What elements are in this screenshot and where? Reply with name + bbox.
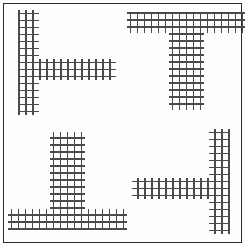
local-letter-glyph	[176, 68, 183, 75]
local-letter-glyph	[209, 206, 216, 213]
local-letter-glyph	[78, 167, 85, 174]
local-letter-glyph	[209, 171, 216, 178]
local-letter-glyph	[106, 209, 113, 216]
glyph-row	[50, 132, 85, 139]
local-letter-glyph	[18, 17, 25, 24]
glyph-row	[132, 178, 209, 185]
local-letter-glyph	[57, 209, 64, 216]
local-letter-glyph	[71, 167, 78, 174]
local-letter-glyph	[67, 66, 74, 73]
local-letter-glyph	[64, 202, 71, 209]
glyph-row	[209, 227, 230, 234]
local-letter-glyph	[190, 33, 197, 40]
glyph-row	[169, 54, 204, 61]
local-letter-glyph	[15, 216, 22, 223]
local-letter-glyph	[102, 73, 109, 80]
local-letter-glyph	[32, 17, 39, 24]
local-letter-glyph	[64, 188, 71, 195]
local-letter-glyph	[78, 153, 85, 160]
local-letter-glyph	[216, 129, 223, 136]
local-letter-glyph	[74, 66, 81, 73]
local-letter-glyph	[57, 139, 64, 146]
local-letter-glyph	[216, 171, 223, 178]
local-letter-glyph	[169, 82, 176, 89]
local-letter-glyph	[183, 82, 190, 89]
local-letter-glyph	[216, 136, 223, 143]
local-letter-glyph	[183, 103, 190, 110]
local-letter-glyph	[102, 66, 109, 73]
local-letter-glyph	[46, 73, 53, 80]
local-letter-glyph	[216, 185, 223, 192]
local-letter-glyph	[169, 61, 176, 68]
local-letter-glyph	[71, 188, 78, 195]
glyph-row	[50, 146, 85, 153]
glyph-row	[18, 17, 39, 24]
local-letter-glyph	[71, 195, 78, 202]
local-letter-glyph	[204, 19, 211, 26]
glyph-row	[39, 73, 116, 80]
local-letter-glyph	[160, 185, 167, 192]
glyph-row	[169, 68, 204, 75]
local-letter-glyph	[32, 80, 39, 87]
local-letter-glyph	[67, 73, 74, 80]
local-letter-glyph	[81, 66, 88, 73]
local-letter-glyph	[190, 19, 197, 26]
local-letter-glyph	[50, 174, 57, 181]
glyph-row	[209, 143, 230, 150]
local-letter-glyph	[153, 178, 160, 185]
local-letter-glyph	[204, 12, 211, 19]
local-letter-glyph	[181, 185, 188, 192]
local-letter-glyph	[169, 54, 176, 61]
local-letter-glyph	[81, 73, 88, 80]
local-letter-glyph	[39, 66, 46, 73]
local-letter-glyph	[183, 68, 190, 75]
glyph-row	[169, 33, 204, 40]
local-letter-glyph	[134, 19, 141, 26]
local-letter-glyph	[190, 40, 197, 47]
local-letter-glyph	[95, 66, 102, 73]
local-letter-glyph	[99, 209, 106, 216]
glyph-row	[39, 66, 116, 73]
local-letter-glyph	[197, 61, 204, 68]
local-letter-glyph	[106, 223, 113, 230]
local-letter-glyph	[88, 73, 95, 80]
glyph-row	[50, 174, 85, 181]
local-letter-glyph	[32, 24, 39, 31]
local-letter-glyph	[169, 40, 176, 47]
figure-top-right-stem	[169, 33, 204, 110]
glyph-row	[132, 192, 209, 199]
local-letter-glyph	[239, 26, 245, 33]
local-letter-glyph	[29, 223, 36, 230]
local-letter-glyph	[25, 52, 32, 59]
local-letter-glyph	[209, 220, 216, 227]
local-letter-glyph	[57, 146, 64, 153]
local-letter-glyph	[232, 12, 239, 19]
local-letter-glyph	[18, 87, 25, 94]
local-letter-glyph	[167, 178, 174, 185]
local-letter-glyph	[60, 59, 67, 66]
local-letter-glyph	[211, 12, 218, 19]
local-letter-glyph	[92, 223, 99, 230]
local-letter-glyph	[155, 19, 162, 26]
local-letter-glyph	[202, 178, 209, 185]
local-letter-glyph	[64, 181, 71, 188]
figure-top-left-arm	[39, 59, 116, 80]
local-letter-glyph	[25, 108, 32, 115]
local-letter-glyph	[18, 24, 25, 31]
glyph-row	[127, 26, 245, 33]
local-letter-glyph	[74, 59, 81, 66]
local-letter-glyph	[223, 143, 230, 150]
local-letter-glyph	[50, 188, 57, 195]
local-letter-glyph	[32, 52, 39, 59]
local-letter-glyph	[64, 132, 71, 139]
local-letter-glyph	[169, 89, 176, 96]
local-letter-glyph	[71, 174, 78, 181]
local-letter-glyph	[209, 150, 216, 157]
local-letter-glyph	[211, 26, 218, 33]
local-letter-glyph	[218, 19, 225, 26]
local-letter-glyph	[176, 33, 183, 40]
local-letter-glyph	[190, 68, 197, 75]
local-letter-glyph	[88, 59, 95, 66]
local-letter-glyph	[232, 19, 239, 26]
local-letter-glyph	[25, 59, 32, 66]
